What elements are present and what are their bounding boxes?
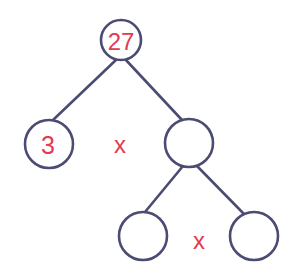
node-circle-empty bbox=[230, 212, 278, 260]
node-right-left bbox=[119, 212, 167, 260]
node-circle-empty bbox=[119, 212, 167, 260]
node-circle-empty bbox=[165, 119, 213, 167]
multiply-operator-top: x bbox=[114, 131, 126, 158]
node-left: 3 bbox=[25, 120, 73, 168]
edge-root-right bbox=[125, 59, 182, 120]
node-right-right bbox=[230, 212, 278, 260]
factor-tree-diagram: 27 3 x x bbox=[0, 0, 295, 275]
edge-right-rightleft bbox=[145, 166, 183, 212]
node-label: 27 bbox=[108, 28, 135, 55]
edge-root-left bbox=[53, 59, 117, 120]
node-label: 3 bbox=[41, 131, 55, 159]
node-root: 27 bbox=[101, 20, 141, 60]
edge-right-rightright bbox=[197, 166, 243, 213]
multiply-operator-bottom: x bbox=[193, 227, 205, 254]
node-right bbox=[165, 119, 213, 167]
